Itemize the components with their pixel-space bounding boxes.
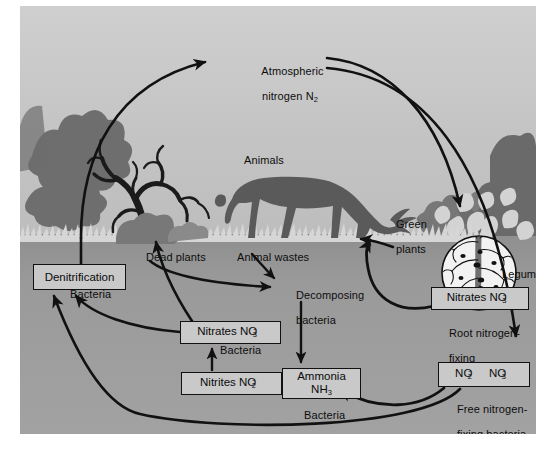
nitrogen-cycle-figure: Atmospheric nitrogen N2 Animals Green pl… [0,0,555,455]
nitrates-legume-box[interactable]: Nitrates NO-3 [431,287,529,310]
label-root-nitrogen-fixing-bacteria: Root nitrogen- fixing bacteria [430,314,520,402]
nitrates-soil-box[interactable]: Nitrates NO-3 [180,321,281,344]
label-bacteria-ammonia: Bacteria [304,409,345,422]
label-atmospheric-nitrogen: Atmospheric nitrogen N2 [243,52,324,117]
diagram-frame: Atmospheric nitrogen N2 Animals Green pl… [20,6,536,434]
ammonia-box[interactable]: Ammonia NH3 [282,368,361,399]
label-animals: Animals [244,154,284,167]
nitrites-box[interactable]: Nitrites NO-2 [181,372,282,395]
label-bacteria-nitrite-to-nitrate: Bacteria [220,344,261,357]
label-dead-plants: Dead plants [146,251,206,264]
label-green-plants: Green plants [377,205,427,268]
free-fixing-box[interactable]: NO-2 NO-3 [438,362,530,387]
label-free-nitrogen-fixing-bacteria: Free nitrogen- fixing bacteria [438,390,527,434]
label-legume: Legume [502,268,536,281]
label-decomposing-bacteria: Decomposing bacteria [277,276,364,339]
denitrification-box[interactable]: Denitrification [33,264,126,290]
label-animal-wastes: Animal wastes [237,251,309,264]
